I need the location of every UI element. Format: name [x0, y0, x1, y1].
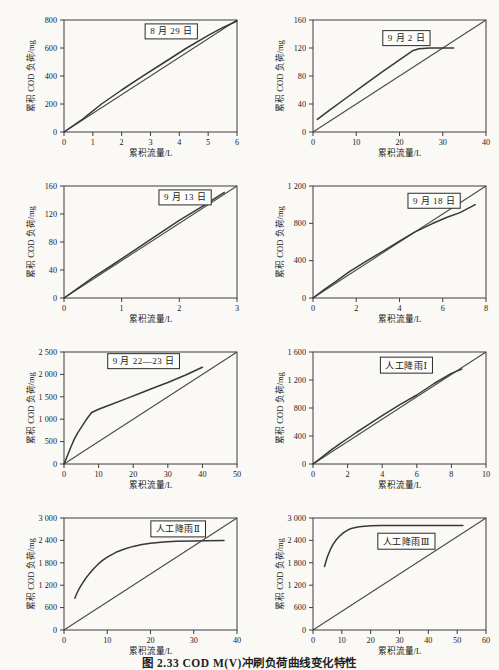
y-tick-label: 80 [49, 238, 57, 247]
x-tick-label: 2 [346, 470, 350, 479]
chart-panel-sep13: 040801201600123累积 COD 负荷/mg累积流量/L9 月 13 … [0, 166, 249, 332]
x-tick-label: 40 [198, 470, 206, 479]
annotation-label: 8 月 29 日 [150, 26, 192, 36]
data-curve [64, 367, 202, 464]
x-tick-label: 20 [367, 636, 375, 645]
y-axis: 04080120160 [45, 182, 64, 303]
y-tick-label: 0 [302, 294, 306, 303]
annotation-label: 9 月 18 日 [413, 196, 455, 206]
y-axis-title: 累积 COD 负荷/mg [274, 537, 285, 610]
y-tick-label: 160 [294, 16, 306, 25]
chart-svg: 02004006008000123456累积 COD 负荷/mg累积流量/L8 … [0, 0, 249, 166]
y-tick-label: 800 [45, 16, 57, 25]
x-axis: 0123456 [62, 132, 239, 147]
x-tick-label: 50 [453, 636, 461, 645]
y-tick-label: 2 000 [39, 370, 57, 379]
x-tick-label: 2 [120, 138, 124, 147]
y-axis: 04008001 2001 600 [288, 348, 313, 469]
chart-svg: 06001 2001 8002 4003 000010203040累积 COD … [0, 498, 249, 664]
x-tick-label: 1 [120, 304, 124, 313]
y-tick-label: 2 400 [288, 536, 306, 545]
y-tick-label: 2 500 [39, 348, 57, 357]
annotation-label: 人工降雨Ⅱ [156, 523, 201, 534]
x-tick-label: 0 [62, 138, 66, 147]
x-tick-label: 2 [354, 304, 358, 313]
x-tick-label: 0 [311, 470, 315, 479]
x-axis-title: 累积流量/L [378, 147, 422, 158]
figure-caption: 图 2.33 COD M(V)冲刷负荷曲线变化特性 [0, 654, 499, 670]
x-tick-label: 0 [62, 636, 66, 645]
x-tick-label: 20 [146, 636, 154, 645]
y-axis-title: 累积 COD 负荷/mg [25, 39, 36, 112]
x-tick-label: 30 [190, 636, 198, 645]
y-tick-label: 400 [294, 432, 306, 441]
annotation-label: 9 月 2 日 [388, 33, 425, 43]
y-tick-label: 3 000 [288, 514, 306, 523]
x-tick-label: 30 [439, 138, 447, 147]
y-tick-label: 600 [45, 603, 57, 612]
x-tick-label: 0 [311, 138, 315, 147]
y-tick-label: 0 [302, 128, 306, 137]
chart-svg: 04008001 2001 6000246810累积 COD 负荷/mg累积流量… [249, 332, 498, 498]
y-tick-label: 120 [45, 210, 57, 219]
x-tick-label: 4 [177, 138, 181, 147]
y-axis-title: 累积 COD 负荷/mg [25, 371, 36, 444]
y-tick-label: 600 [45, 44, 57, 53]
x-tick-label: 50 [233, 470, 241, 479]
y-tick-label: 1 000 [39, 415, 57, 424]
chart-svg: 05001 0001 5002 0002 50001020304050累积 CO… [0, 332, 249, 498]
x-tick-label: 4 [380, 470, 384, 479]
annotation-label: 人工降雨Ⅲ [383, 536, 430, 547]
x-axis: 01020304050 [62, 464, 241, 479]
x-tick-label: 30 [164, 470, 172, 479]
y-tick-label: 40 [298, 100, 306, 109]
y-tick-label: 0 [53, 460, 57, 469]
x-axis: 02468 [311, 298, 488, 313]
x-tick-label: 10 [103, 636, 111, 645]
y-axis: 04080120160 [294, 16, 313, 137]
y-axis: 05001 0001 5002 0002 500 [39, 348, 64, 469]
annotation-label: 人工降雨Ⅰ [385, 360, 427, 371]
y-tick-label: 40 [49, 266, 57, 275]
y-tick-label: 400 [45, 72, 57, 81]
y-tick-label: 0 [302, 626, 306, 635]
chart-svg: 04080120160010203040累积 COD 负荷/mg累积流量/L9 … [249, 0, 498, 166]
y-tick-label: 1 800 [39, 559, 57, 568]
x-tick-label: 8 [449, 470, 453, 479]
y-tick-label: 3 000 [39, 514, 57, 523]
x-tick-label: 60 [482, 636, 490, 645]
chart-panel-sep22-23: 05001 0001 5002 0002 50001020304050累积 CO… [0, 332, 249, 498]
x-axis: 010203040 [311, 132, 490, 147]
chart-svg: 04008001 20002468累积 COD 负荷/mg累积流量/L9 月 1… [249, 166, 498, 332]
x-tick-label: 3 [148, 138, 152, 147]
x-axis-title: 累积流量/L [378, 313, 422, 324]
y-tick-label: 0 [53, 128, 57, 137]
y-tick-label: 0 [53, 294, 57, 303]
y-tick-label: 1 500 [39, 393, 57, 402]
x-tick-label: 6 [235, 138, 239, 147]
y-axis: 06001 2001 8002 4003 000 [288, 514, 313, 635]
x-axis: 0246810 [311, 464, 490, 479]
y-tick-label: 2 400 [39, 536, 57, 545]
annotation-label: 9 月 13 日 [164, 192, 206, 202]
y-tick-label: 0 [53, 626, 57, 635]
data-curve [313, 205, 475, 298]
chart-panel-artificial-1: 04008001 2001 6000246810累积 COD 负荷/mg累积流量… [249, 332, 499, 498]
y-axis: 06001 2001 8002 4003 000 [39, 514, 64, 635]
y-tick-label: 120 [294, 44, 306, 53]
chart-panel-sep18: 04008001 20002468累积 COD 负荷/mg累积流量/L9 月 1… [249, 166, 499, 332]
y-axis: 0200400600800 [45, 16, 64, 137]
y-tick-label: 1 200 [39, 581, 57, 590]
y-tick-label: 800 [294, 219, 306, 228]
y-axis-title: 累积 COD 负荷/mg [25, 537, 36, 610]
chart-panel-artificial-3: 06001 2001 8002 4003 0000102030405060累积 … [249, 498, 499, 664]
chart-panel-artificial-2: 06001 2001 8002 4003 000010203040累积 COD … [0, 498, 249, 664]
y-axis-title: 累积 COD 负荷/mg [274, 39, 285, 112]
x-axis: 010203040 [62, 630, 241, 645]
y-axis: 04008001 200 [288, 182, 313, 303]
x-tick-label: 20 [129, 470, 137, 479]
y-axis-title: 累积 COD 负荷/mg [274, 205, 285, 278]
y-tick-label: 0 [302, 460, 306, 469]
x-tick-label: 4 [397, 304, 401, 313]
